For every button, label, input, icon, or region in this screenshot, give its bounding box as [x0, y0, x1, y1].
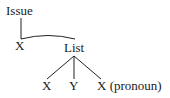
node-list: List — [64, 41, 84, 54]
edge-list-to-x — [47, 56, 74, 79]
tree-diagram: Issue X List X Y X (pronoun) — [0, 0, 170, 98]
node-issue: Issue — [6, 4, 33, 17]
edge-list-to-x-pronoun — [74, 56, 101, 79]
node-child-y: Y — [69, 79, 78, 92]
node-child-x: X — [42, 79, 51, 92]
node-x-left: X — [15, 39, 24, 52]
edge-x-to-list-arc — [21, 36, 75, 40]
node-child-x-pronoun: X (pronoun) — [97, 79, 162, 92]
